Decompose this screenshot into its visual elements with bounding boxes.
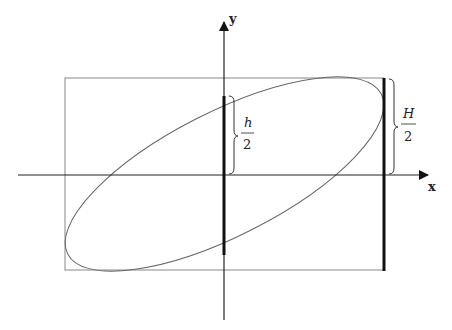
H-numerator: H xyxy=(402,106,415,121)
H-denominator: 2 xyxy=(404,129,412,144)
x-axis-label: x xyxy=(428,179,436,194)
brace-h-half xyxy=(229,96,238,174)
ellipse-bounding-box-diagram: h 2 H 2 y x xyxy=(0,0,452,330)
h-denominator: 2 xyxy=(243,137,251,152)
brace-H-half xyxy=(389,79,398,174)
h-numerator: h xyxy=(244,115,252,130)
y-axis-label: y xyxy=(228,11,237,26)
